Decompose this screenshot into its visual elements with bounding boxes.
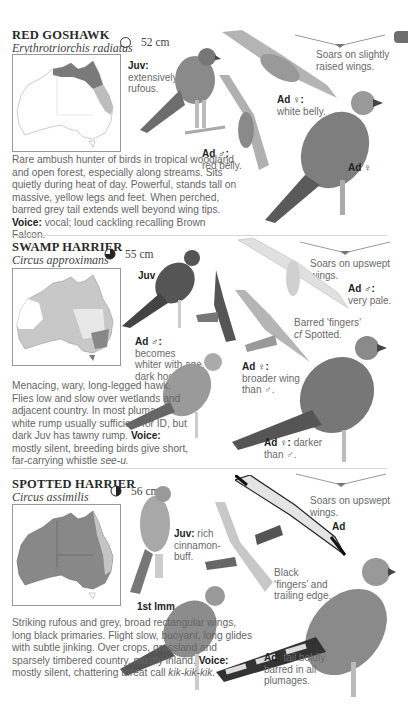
range-map-spotted-harrier (12, 504, 121, 606)
section-thumb-tab (394, 31, 408, 43)
label-ad-male-very-pale: Ad ♂: very pale. (348, 283, 398, 306)
common-name: RED GOSHAWK (12, 28, 110, 42)
description-red-goshawk: Rare ambush hunter of birds in tropical … (12, 154, 237, 242)
australia-map-icon (13, 269, 120, 365)
range-map-swamp-harrier (12, 268, 121, 366)
scientific-name: Circus assimilis (12, 490, 89, 505)
australia-map-icon (13, 55, 120, 151)
bird-illustration-ad-female-perched (265, 85, 390, 225)
range-map-red-goshawk (12, 54, 121, 152)
label-ad: Ad (332, 521, 345, 533)
scientific-name: Circus approximans (12, 253, 109, 268)
description-swamp-harrier: Menacing, wary, long-legged hawk. Flies … (12, 380, 192, 468)
label-ad-female-darker: Ad ♀: darker than ♂. (264, 437, 324, 460)
section-divider (12, 235, 387, 236)
section-divider (12, 468, 387, 469)
label-ad-tail-boldly-barred: Ad: tail boldly barred in all plumages. (264, 652, 326, 687)
description-spotted-harrier: Striking rufous and grey, broad rectangu… (12, 617, 257, 680)
half-circle-icon (110, 485, 122, 497)
label-ad-female: Ad ♀ (348, 162, 372, 174)
australia-map-icon (13, 505, 120, 605)
